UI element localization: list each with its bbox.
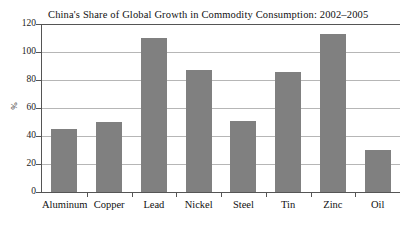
y-axis-tick-label: 20 — [12, 159, 36, 169]
x-axis-tick-mark — [176, 193, 177, 197]
chart-title: China's Share of Global Growth in Commod… — [48, 8, 368, 21]
bar-chart-figure: % 020406080100120 China's Share of Globa… — [0, 0, 412, 225]
x-axis-tick-label: Nickel — [176, 198, 221, 212]
bar — [186, 70, 212, 192]
y-axis-tick-mark — [36, 164, 42, 165]
y-axis-tick-label: 80 — [12, 75, 36, 85]
y-axis-tick-label: 120 — [12, 19, 36, 29]
y-axis-tick-label: 0 — [12, 187, 36, 197]
bar — [51, 129, 77, 192]
y-axis-tick-label: 40 — [12, 131, 36, 141]
gridline — [42, 80, 400, 81]
gridline — [42, 52, 400, 53]
plot-area — [42, 24, 400, 192]
bar — [275, 72, 301, 192]
bar — [96, 122, 122, 192]
gridline — [42, 24, 400, 25]
x-axis-tick-mark — [221, 193, 222, 197]
y-axis-tick-label: 60 — [12, 103, 36, 113]
y-axis-tick-mark — [36, 80, 42, 81]
x-axis-tick-label: Aluminum — [42, 198, 87, 212]
x-axis-tick-mark — [266, 193, 267, 197]
y-axis-tick-mark — [36, 136, 42, 137]
x-axis-tick-label: Copper — [87, 198, 132, 212]
x-axis-tick-label: Oil — [355, 198, 400, 212]
bar — [365, 150, 391, 192]
x-axis-category-labels: AluminumCopperLeadNickelSteelTinZincOil — [42, 198, 400, 218]
x-axis-tick-mark — [87, 193, 88, 197]
y-axis-tick-label: 100 — [12, 47, 36, 57]
y-axis-tick-mark — [36, 52, 42, 53]
bar — [230, 121, 256, 192]
x-axis-tick-label: Lead — [132, 198, 177, 212]
bar — [141, 38, 167, 192]
x-axis-tick-mark — [355, 193, 356, 197]
x-axis-tick-label: Steel — [221, 198, 266, 212]
bar — [320, 34, 346, 192]
gridline — [42, 108, 400, 109]
y-axis-tick-mark — [36, 24, 42, 25]
x-axis-tick-mark — [132, 193, 133, 197]
y-axis-tick-mark — [36, 108, 42, 109]
x-axis-tick-label: Zinc — [311, 198, 356, 212]
y-axis-tick-mark — [36, 192, 42, 193]
y-axis-tick-labels: 020406080100120 — [0, 0, 36, 225]
x-axis-tick-mark — [311, 193, 312, 197]
x-axis-tick-label: Tin — [266, 198, 311, 212]
